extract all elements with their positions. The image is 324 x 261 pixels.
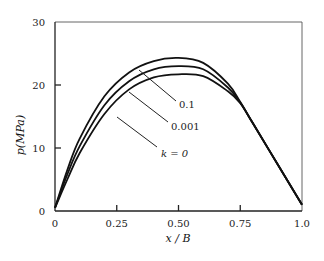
y-axis-title: p(MPa)	[14, 115, 27, 155]
y-tick-label: 20	[32, 80, 45, 91]
x-tick-label: 0.75	[229, 218, 251, 229]
y-tick-label: 30	[32, 17, 45, 28]
curve-k-0.001	[55, 66, 302, 208]
curve-k-k=0	[55, 74, 302, 208]
chart: 0102030 00.250.500.751.0 0.1 0.001 k = 0…	[0, 0, 324, 261]
x-tick-label: 0.50	[167, 218, 189, 229]
curve-label-0.1: 0.1	[179, 99, 195, 110]
x-ticks: 00.250.500.751.0	[52, 205, 310, 229]
x-tick-label: 0	[52, 218, 58, 229]
curve-label-k0: k = 0	[161, 148, 189, 159]
y-tick-label: 10	[32, 143, 45, 154]
curve-label-0.001: 0.001	[171, 121, 200, 132]
x-tick-label: 1.0	[294, 218, 310, 229]
leader-line-k0	[117, 117, 157, 147]
x-tick-label: 0.25	[106, 218, 128, 229]
y-ticks: 0102030	[32, 17, 61, 217]
y-tick-label: 0	[39, 206, 45, 217]
leader-line-0.001	[129, 92, 168, 122]
x-axis-title: x / B	[166, 232, 191, 245]
curves	[55, 58, 302, 208]
